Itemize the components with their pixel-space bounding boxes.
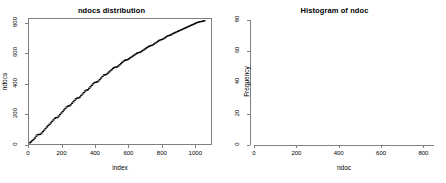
scatter-point bbox=[89, 86, 91, 87]
scatter-point bbox=[91, 85, 93, 86]
scatter-x-tick bbox=[62, 145, 63, 148]
histogram-y-tick bbox=[247, 51, 250, 52]
scatter-point bbox=[100, 77, 102, 78]
histogram-x-tick-label: 0 bbox=[252, 150, 255, 156]
histogram-y-tick-label: 40 bbox=[234, 72, 240, 90]
scatter-y-tick bbox=[25, 53, 28, 54]
histogram-y-tick bbox=[247, 114, 250, 115]
scatter-point bbox=[35, 135, 37, 136]
histogram-x-axis-title: ndoc bbox=[337, 164, 351, 171]
scatter-point bbox=[82, 93, 84, 94]
scatter-y-tick bbox=[25, 145, 28, 146]
scatter-y-tick bbox=[25, 114, 28, 115]
histogram-y-tick-label: 80 bbox=[234, 10, 240, 28]
scatter-y-tick bbox=[25, 84, 28, 85]
scatter-x-tick bbox=[128, 145, 129, 148]
scatter-point bbox=[97, 80, 99, 81]
scatter-point bbox=[120, 63, 122, 64]
histogram-x-tick bbox=[381, 145, 382, 148]
scatter-point bbox=[58, 115, 60, 116]
scatter-point bbox=[46, 126, 48, 127]
scatter-y-tick-label: 400 bbox=[12, 74, 18, 92]
scatter-x-axis-title: index bbox=[112, 164, 128, 171]
histogram-panel: Histogram of ndoc 0200400600800020406080… bbox=[223, 0, 446, 183]
scatter-point bbox=[51, 121, 53, 122]
scatter-x-tick-label: 200 bbox=[56, 150, 66, 156]
scatter-point bbox=[107, 73, 109, 74]
scatter-point bbox=[203, 20, 205, 21]
scatter-x-tick-label: 1000 bbox=[189, 150, 202, 156]
scatter-x-tick-label: 600 bbox=[123, 150, 133, 156]
scatter-point bbox=[44, 128, 46, 129]
histogram-y-tick-label: 60 bbox=[234, 41, 240, 59]
scatter-point bbox=[105, 74, 107, 75]
scatter-point bbox=[50, 122, 52, 123]
scatter-point bbox=[109, 70, 111, 71]
scatter-point bbox=[79, 96, 81, 97]
scatter-point bbox=[87, 89, 89, 90]
histogram-x-tick bbox=[254, 145, 255, 148]
scatter-point bbox=[92, 83, 94, 84]
scatter-point-group bbox=[29, 20, 205, 143]
scatter-y-tick-label: 600 bbox=[12, 43, 18, 61]
scatter-point bbox=[31, 140, 33, 141]
histogram-x-axis-line bbox=[254, 145, 434, 146]
histogram-x-tick-label: 600 bbox=[376, 150, 386, 156]
histogram-y-tick-label: 20 bbox=[234, 104, 240, 122]
scatter-point bbox=[42, 131, 44, 132]
scatter-plot-points bbox=[29, 19, 211, 144]
scatter-y-tick-label: 0 bbox=[12, 135, 18, 153]
scatter-point bbox=[101, 76, 103, 77]
scatter-point bbox=[119, 64, 121, 65]
scatter-point bbox=[80, 95, 82, 96]
scatter-x-tick bbox=[28, 145, 29, 148]
scatter-point bbox=[34, 137, 36, 138]
scatter-y-tick bbox=[25, 23, 28, 24]
histogram-x-tick-label: 400 bbox=[334, 150, 344, 156]
scatter-x-tick-label: 800 bbox=[157, 150, 167, 156]
scatter-y-axis-title: ndocs bbox=[1, 73, 8, 90]
scatter-point bbox=[111, 69, 113, 70]
scatter-point bbox=[47, 125, 49, 126]
histogram-x-tick-label: 800 bbox=[418, 150, 428, 156]
scatter-point bbox=[70, 104, 72, 105]
scatter-point bbox=[63, 109, 65, 110]
scatter-point bbox=[88, 88, 90, 89]
histogram-y-axis-line bbox=[250, 20, 251, 145]
scatter-x-tick bbox=[95, 145, 96, 148]
histogram-x-tick-label: 200 bbox=[291, 150, 301, 156]
scatter-point bbox=[72, 101, 74, 102]
scatter-point bbox=[64, 108, 66, 109]
scatter-point bbox=[121, 62, 123, 63]
scatter-point bbox=[117, 65, 119, 66]
scatter-point bbox=[71, 103, 73, 104]
scatter-point bbox=[39, 134, 41, 135]
scatter-point bbox=[43, 129, 45, 130]
scatter-point bbox=[74, 100, 76, 101]
scatter-point bbox=[48, 124, 50, 125]
scatter-point bbox=[108, 71, 110, 72]
histogram-x-tick bbox=[296, 145, 297, 148]
figure-panel: ndocs distribution 020040060080010000200… bbox=[0, 0, 446, 183]
scatter-y-tick-label: 200 bbox=[12, 104, 18, 122]
scatter-point bbox=[33, 139, 35, 140]
histogram-y-axis-title: Frequency bbox=[243, 66, 250, 97]
histogram-x-tick bbox=[339, 145, 340, 148]
scatter-x-tick bbox=[195, 145, 196, 148]
scatter-x-tick-label: 400 bbox=[90, 150, 100, 156]
scatter-plot-panel: ndocs distribution 020040060080010000200… bbox=[0, 0, 223, 183]
histogram-title: Histogram of ndoc bbox=[223, 6, 446, 15]
scatter-point bbox=[59, 114, 61, 115]
scatter-point bbox=[56, 117, 58, 118]
scatter-plot-title: ndocs distribution bbox=[0, 6, 223, 15]
scatter-x-tick bbox=[162, 145, 163, 148]
histogram-y-tick bbox=[247, 145, 250, 146]
scatter-point bbox=[83, 92, 85, 93]
scatter-point bbox=[60, 112, 62, 113]
scatter-point bbox=[30, 141, 32, 142]
histogram-x-tick bbox=[423, 145, 424, 148]
scatter-x-tick-label: 0 bbox=[26, 150, 29, 156]
scatter-point bbox=[40, 132, 42, 133]
histogram-y-tick bbox=[247, 20, 250, 21]
histogram-y-tick-label: 0 bbox=[234, 135, 240, 153]
